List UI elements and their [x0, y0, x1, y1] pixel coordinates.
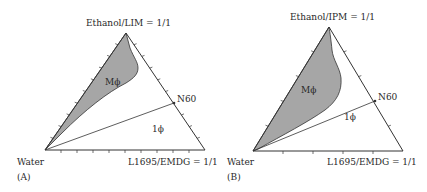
- microemulsion-region-b: [253, 27, 341, 151]
- top-vertex-label-b: Ethanol/IPM = 1/1: [290, 13, 375, 22]
- microemulsion-label-a: Mϕ: [105, 78, 120, 87]
- single-phase-label-b: 1ϕ: [344, 113, 356, 122]
- panel-a: Ethanol/LIM = 1/1 Water L1695/EMDG = 1/1…: [0, 0, 213, 192]
- ticks-right-a: [134, 44, 200, 139]
- top-vertex-label-a: Ethanol/LIM = 1/1: [86, 19, 171, 28]
- dilution-point-label-a: N60: [177, 95, 196, 104]
- dilution-point-label-b: N60: [378, 93, 397, 102]
- right-vertex-label-b: L1695/EMDG = 1/1: [327, 158, 417, 167]
- left-vertex-label-b: Water: [227, 158, 254, 167]
- microemulsion-label-b: Mϕ: [301, 86, 316, 95]
- n60-point-a: [173, 102, 176, 105]
- panel-label-b: (B): [227, 173, 241, 182]
- microemulsion-region-a: [45, 33, 138, 150]
- panel-b: Ethanol/IPM = 1/1 Water L1695/EMDG = 1/1…: [213, 0, 427, 192]
- left-vertex-label-a: Water: [17, 158, 44, 167]
- n60-point-b: [374, 100, 377, 103]
- single-phase-label-a: 1ϕ: [152, 125, 164, 134]
- panel-label-a: (A): [17, 173, 31, 182]
- right-vertex-label-a: L1695/EMDG = 1/1: [128, 158, 218, 167]
